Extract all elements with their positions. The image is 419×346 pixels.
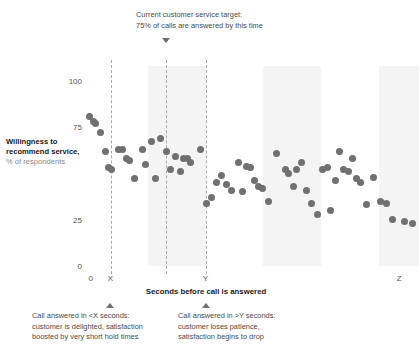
background-band (379, 66, 419, 266)
data-point (119, 146, 126, 153)
plot-area (88, 66, 419, 266)
data-point (247, 164, 254, 171)
triangle-up-icon-right (202, 303, 210, 308)
data-point (163, 148, 170, 155)
service-target-annotation: Current customer service target: 75% of … (136, 10, 386, 31)
data-point (383, 200, 390, 207)
short-hold-line-2: customer is delighted, satisfaction (32, 322, 143, 333)
data-point (197, 146, 204, 153)
long-hold-line-1: Call answered in >Y seconds: (178, 311, 275, 322)
y-tick-label: 100 (54, 76, 82, 85)
x-tick-label: Z (397, 274, 402, 283)
data-point (218, 172, 225, 179)
data-point (314, 211, 321, 218)
data-point (327, 207, 334, 214)
data-point (102, 148, 109, 155)
data-point (259, 185, 266, 192)
short-hold-line-1: Call answered in <X seconds: (32, 311, 143, 322)
data-point (126, 157, 133, 164)
data-point (349, 155, 356, 162)
data-point (370, 174, 377, 181)
data-point (336, 148, 343, 155)
service-target-line-1: Current customer service target: (136, 10, 386, 21)
data-point (409, 220, 416, 227)
x-tick-label: X (108, 274, 113, 283)
data-point (332, 177, 339, 184)
long-hold-annotation: Call answered in >Y seconds: customer lo… (178, 311, 275, 343)
background-band (148, 66, 206, 266)
x-tick-label: 0 (88, 274, 92, 283)
data-point (363, 201, 370, 208)
data-point (177, 168, 184, 175)
data-point (208, 194, 215, 201)
service-target-line-2: 75% of calls are answered by this time (136, 21, 386, 32)
data-point (228, 187, 235, 194)
short-hold-annotation: Call answered in <X seconds: customer is… (32, 311, 143, 343)
triangle-up-icon-left (106, 303, 114, 308)
guide-line-y-threshold (206, 60, 207, 274)
y-tick-label: 0 (54, 262, 82, 271)
data-point (131, 175, 138, 182)
data-point (213, 179, 220, 186)
long-hold-line-2: customer loses patience, (178, 322, 275, 333)
data-point (357, 179, 364, 186)
data-point (265, 198, 272, 205)
data-point (303, 187, 310, 194)
data-point (92, 120, 99, 127)
long-hold-line-3: satisfaction begins to drop (178, 332, 275, 343)
y-axis: 10075250 (52, 66, 82, 266)
y-tick-label: 75 (54, 123, 82, 132)
chart-figure: Current customer service target: 75% of … (0, 0, 419, 346)
x-tick-label: Y (203, 274, 208, 283)
data-point (308, 200, 315, 207)
short-hold-line-3: boosted by very short hold times (32, 332, 143, 343)
data-point (290, 183, 297, 190)
data-point (401, 218, 408, 225)
triangle-down-icon (162, 38, 170, 43)
data-point (139, 146, 146, 153)
data-point (157, 135, 164, 142)
data-point (298, 159, 305, 166)
data-point (235, 159, 242, 166)
data-point (108, 166, 115, 173)
data-point (345, 168, 352, 175)
data-point (324, 164, 331, 171)
y-tick-label: 25 (54, 215, 82, 224)
background-band (263, 66, 321, 266)
data-point (167, 166, 174, 173)
data-point (97, 129, 104, 136)
data-point (239, 188, 246, 195)
data-point (273, 150, 280, 157)
data-point (172, 153, 179, 160)
x-axis-title: Seconds before call is answered (146, 287, 266, 296)
